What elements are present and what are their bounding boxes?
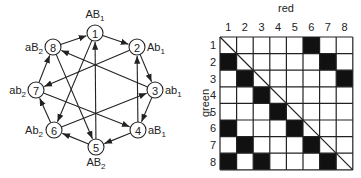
node-number: 7 (33, 85, 39, 97)
node-number: 4 (135, 125, 141, 137)
node-label: Ab1 (147, 41, 165, 56)
row-label: 4 (210, 89, 216, 101)
column-label: 3 (258, 21, 264, 33)
column-label: 7 (325, 21, 331, 33)
node-2: 2Ab1 (129, 39, 165, 56)
node-number: 8 (50, 42, 56, 54)
filled-cell (253, 87, 270, 104)
column-label: 2 (242, 21, 248, 33)
node-5: 5AB2 (86, 139, 106, 171)
edge-3-to-4 (142, 97, 152, 121)
filled-cell (220, 54, 237, 71)
matrix-cells (220, 37, 353, 170)
node-8: 8aB2 (25, 39, 61, 56)
edge-2-to-3 (140, 54, 151, 81)
edge-6-to-3 (61, 93, 146, 127)
row-label: 6 (210, 122, 216, 134)
node-label: ab1 (165, 84, 182, 99)
edge-8-to-5 (56, 54, 92, 138)
column-label: 1 (225, 21, 231, 33)
filled-cell (303, 137, 320, 154)
node-label: AB2 (86, 156, 106, 171)
row-label: 2 (210, 56, 216, 68)
node-7: 7ab2 (9, 82, 44, 99)
column-label: 4 (275, 21, 281, 33)
node-label: aB2 (25, 41, 43, 56)
node-number: 5 (93, 142, 99, 154)
row-labels: 12345678 (210, 39, 216, 167)
edge-5-to-6 (62, 133, 88, 144)
filled-cell (336, 70, 353, 87)
x-axis-title: red (278, 2, 294, 14)
matrix-grid (220, 37, 353, 170)
row-label: 5 (210, 106, 216, 118)
state-graph: 1AB12Ab13ab14aB15AB26Ab27ab28aB2 (0, 0, 200, 178)
filled-cell (320, 153, 337, 170)
filled-cell (220, 153, 237, 170)
node-number: 6 (51, 125, 57, 137)
filled-cell (253, 153, 270, 170)
node-3: 3ab1 (147, 82, 182, 99)
node-number: 2 (134, 42, 140, 54)
node-label: aB1 (148, 124, 166, 139)
edge-4-to-2 (137, 56, 138, 122)
row-label: 7 (210, 139, 216, 151)
node-6: 6Ab2 (25, 122, 62, 139)
filled-cell (220, 120, 237, 137)
node-4: 4aB1 (130, 122, 166, 139)
column-label: 6 (308, 21, 314, 33)
filled-cell (237, 70, 254, 87)
node-label: Ab2 (25, 124, 43, 139)
edge-1-to-2 (103, 36, 129, 45)
filled-cell (286, 120, 303, 137)
node-label: AB1 (85, 8, 105, 23)
node-label: ab2 (9, 84, 26, 99)
node-number: 3 (152, 85, 158, 97)
filled-cell (320, 54, 337, 71)
filled-cell (270, 103, 287, 120)
filled-cell (303, 37, 320, 54)
row-label: 8 (210, 156, 216, 168)
column-labels: 12345678 (225, 21, 347, 33)
column-label: 5 (292, 21, 298, 33)
row-label: 3 (210, 73, 216, 85)
edge-6-to-7 (40, 98, 51, 122)
edge-4-to-5 (104, 133, 130, 144)
column-label: 8 (341, 21, 347, 33)
edge-7-to-4 (43, 93, 129, 127)
y-axis-title: green (199, 89, 211, 117)
row-label: 1 (210, 39, 216, 51)
edge-5-to-1 (95, 42, 96, 139)
diagonal-line (220, 37, 353, 170)
edge-7-to-8 (39, 55, 50, 82)
filled-cell (237, 137, 254, 154)
node-number: 1 (92, 28, 98, 40)
node-1: 1AB1 (85, 8, 105, 41)
edge-8-to-1 (61, 36, 87, 45)
